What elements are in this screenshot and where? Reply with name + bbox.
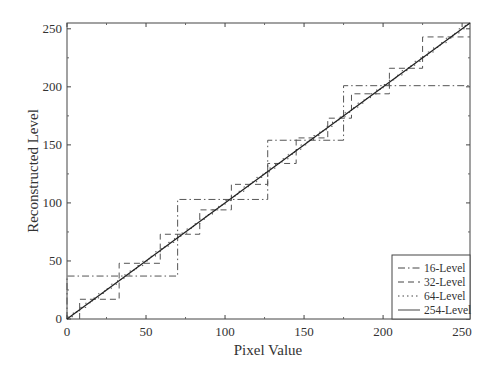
x-tick-label: 150: [294, 324, 314, 339]
x-tick-label: 200: [373, 324, 393, 339]
y-tick-label: 250: [43, 21, 63, 36]
chart: 050100150200250 050100150200250 Pixel Va…: [0, 0, 493, 372]
legend-item-label: 16-Level: [424, 262, 466, 274]
y-tick-label: 0: [56, 311, 63, 326]
x-tick-label: 250: [452, 324, 472, 339]
legend: 16-Level32-Level64-Level254-Level: [392, 255, 471, 319]
y-axis-label: Reconstructed Level: [25, 109, 41, 233]
x-axis-label: Pixel Value: [234, 342, 303, 358]
legend-item-label: 254-Level: [424, 304, 471, 316]
legend-item-label: 32-Level: [424, 276, 466, 288]
y-tick-label: 100: [43, 195, 63, 210]
y-tick-label: 150: [43, 137, 63, 152]
x-tick-label: 0: [64, 324, 71, 339]
y-tick-label: 50: [49, 253, 62, 268]
y-tick-label: 200: [43, 79, 63, 94]
x-tick-label: 100: [215, 324, 235, 339]
x-tick-label: 50: [140, 324, 153, 339]
legend-item-label: 64-Level: [424, 290, 466, 302]
